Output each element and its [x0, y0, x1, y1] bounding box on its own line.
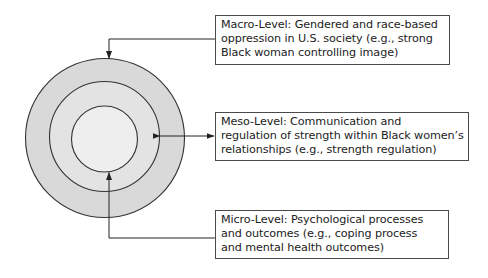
- micro-level-text-line-3: and mental health outcomes): [221, 241, 443, 255]
- macro-connector-arrow: [109, 39, 214, 59]
- meso-level-text-line-3: relationships (e.g., strength regulation…: [221, 143, 463, 157]
- macro-level-text-line-1: Macro-Level: Gendered and race-based: [221, 18, 444, 32]
- micro-level-text-line-2: and outcomes (e.g., coping process: [221, 227, 443, 241]
- micro-level-box: Micro-Level: Psychological processes and…: [215, 210, 449, 259]
- meso-level-box: Meso-Level: Communication and regulation…: [215, 112, 469, 161]
- micro-level-text-line-1: Micro-Level: Psychological processes: [221, 213, 443, 227]
- macro-level-box: Macro-Level: Gendered and race-based opp…: [215, 15, 450, 65]
- meso-level-text-line-1: Meso-Level: Communication and: [221, 115, 463, 129]
- macro-level-text-line-2: oppression in U.S. society (e.g., strong: [221, 32, 444, 46]
- inner-circle-micro: [72, 106, 138, 172]
- meso-level-text-line-2: regulation of strength within Black wome…: [221, 129, 463, 143]
- macro-level-text-line-3: Black woman controlling image): [221, 46, 444, 60]
